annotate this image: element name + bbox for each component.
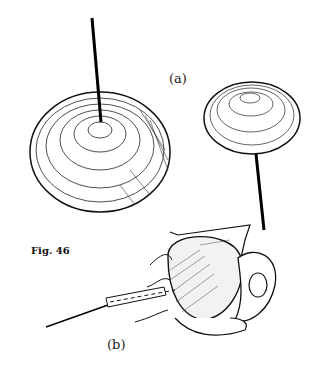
rose-bud: [46, 225, 276, 335]
label-a: (a): [169, 71, 187, 86]
label-b: (b): [107, 337, 125, 352]
small-pompom-flower: [204, 82, 300, 230]
large-pompom-flower: [30, 18, 170, 212]
figure-caption: Fig. 46: [31, 245, 70, 256]
wire: [46, 305, 108, 327]
illustration: [0, 0, 318, 366]
flower-stem: [256, 154, 264, 230]
